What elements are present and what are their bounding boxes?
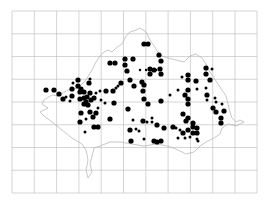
- occurrence-dot: [87, 90, 92, 95]
- region-outline: [40, 28, 244, 178]
- occurrence-dot: [211, 68, 214, 71]
- occurrence-dot: [127, 127, 132, 132]
- occurrence-dot: [213, 109, 218, 114]
- occurrence-dot: [145, 41, 150, 46]
- distribution-map: [0, 0, 267, 208]
- occurrence-dot: [112, 60, 117, 65]
- occurrence-dot: [75, 77, 80, 82]
- occurrence-dot: [177, 89, 180, 92]
- occurrence-dot: [185, 72, 190, 77]
- occurrence-dot: [179, 129, 182, 132]
- occurrence-dot: [77, 119, 82, 124]
- occurrence-dot: [99, 90, 102, 93]
- occurrence-dot: [65, 96, 68, 99]
- occurrence-dot: [203, 65, 208, 70]
- occurrence-dot: [189, 136, 192, 139]
- occurrence-dot: [181, 76, 184, 79]
- occurrence-dot: [127, 77, 132, 82]
- occurrence-dot: [221, 108, 226, 113]
- occurrence-dot: [185, 101, 190, 106]
- occurrence-dot: [131, 83, 136, 88]
- occurrence-dot: [151, 117, 154, 120]
- occurrence-dot: [155, 69, 157, 71]
- occurrence-dot: [206, 99, 209, 102]
- occurrence-dot: [169, 94, 172, 97]
- occurrence-dot: [156, 52, 161, 57]
- occurrence-dot: [185, 77, 190, 82]
- occurrence-dot: [147, 66, 152, 71]
- occurrence-dot: [140, 88, 145, 93]
- occurrence-dot: [130, 56, 135, 61]
- occurrence-dot: [180, 111, 185, 116]
- occurrence-dot: [128, 138, 133, 143]
- occurrence-dot: [170, 124, 175, 129]
- occurrence-dot: [104, 102, 107, 105]
- occurrence-dot: [193, 78, 198, 83]
- occurrence-dot: [56, 91, 61, 96]
- occurrence-dot: [78, 110, 83, 115]
- occurrence-dot: [184, 137, 187, 140]
- occurrence-dot: [221, 103, 224, 106]
- occurrence-dot: [140, 118, 145, 123]
- occurrence-dot: [91, 95, 96, 100]
- occurrence-dot: [177, 137, 180, 140]
- occurrence-dot: [122, 56, 127, 61]
- occurrence-dot: [218, 115, 223, 120]
- occurrence-dot: [135, 128, 138, 131]
- occurrence-dot: [69, 86, 74, 91]
- occurrence-dot: [205, 87, 208, 90]
- occurrence-dot: [157, 66, 162, 71]
- occurrence-dot: [141, 82, 146, 87]
- occurrence-dot: [77, 96, 82, 101]
- occurrence-dot: [158, 71, 163, 76]
- occurrence-dot: [185, 127, 190, 132]
- occurrence-dot: [89, 78, 92, 81]
- occurrence-dot: [146, 121, 149, 124]
- occurrence-dot: [190, 130, 195, 135]
- occurrence-dot: [122, 62, 127, 67]
- occurrence-dot: [158, 98, 163, 103]
- occurrence-dot: [132, 119, 135, 122]
- occurrence-dot: [161, 125, 166, 130]
- occurrence-dot: [147, 71, 152, 76]
- occurrence-dot: [145, 101, 150, 106]
- occurrence-dot: [85, 118, 88, 121]
- occurrence-dot: [69, 100, 72, 103]
- occurrence-dot: [87, 109, 92, 114]
- occurrence-dot: [115, 87, 118, 90]
- occurrence-dot: [154, 122, 159, 127]
- occurrence-dot: [51, 87, 56, 92]
- occurrence-dot: [107, 116, 112, 121]
- occurrence-dot: [107, 60, 112, 65]
- occurrence-dot: [139, 69, 141, 71]
- occurrence-dot: [158, 138, 163, 143]
- occurrence-dot: [151, 121, 154, 124]
- occurrence-dot: [183, 118, 188, 123]
- occurrence-dot: [81, 89, 86, 94]
- occurrence-dot: [214, 97, 217, 100]
- occurrence-dot: [196, 88, 199, 91]
- occurrence-dot: [103, 88, 108, 93]
- occurrence-dot: [86, 80, 91, 85]
- occurrence-dot: [85, 102, 90, 107]
- map-grid: [12, 11, 257, 193]
- occurrence-dot: [197, 140, 200, 143]
- occurrence-dot: [215, 101, 218, 104]
- occurrence-dot: [204, 92, 209, 97]
- occurrence-dots: [43, 41, 226, 144]
- occurrence-dot: [203, 71, 208, 76]
- occurrence-dot: [72, 82, 75, 85]
- occurrence-dot: [95, 124, 100, 129]
- occurrence-dot: [180, 130, 185, 135]
- occurrence-dot: [143, 138, 146, 141]
- occurrence-dot: [69, 93, 74, 98]
- occurrence-dot: [111, 100, 116, 105]
- occurrence-dot: [158, 58, 163, 63]
- occurrence-dot: [110, 88, 115, 93]
- occurrence-dot: [90, 114, 95, 119]
- occurrence-dot: [95, 92, 98, 95]
- occurrence-dot: [185, 87, 190, 92]
- occurrence-dot: [218, 120, 223, 125]
- occurrence-dot: [118, 80, 123, 85]
- occurrence-dot: [194, 125, 199, 130]
